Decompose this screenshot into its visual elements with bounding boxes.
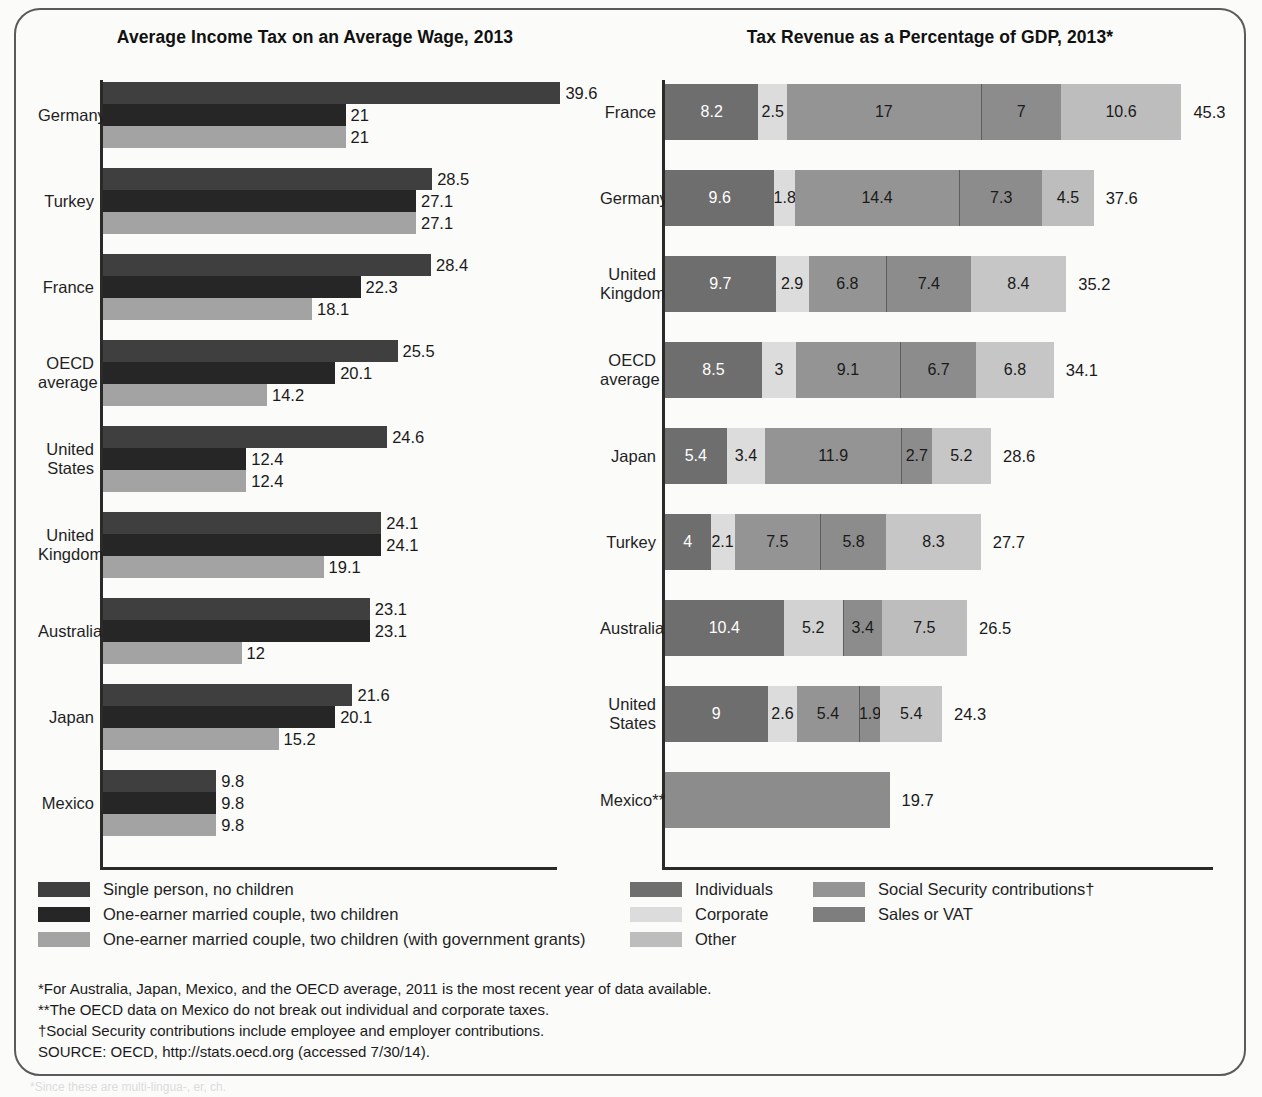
left-chart-bar-value: 27.1 — [421, 190, 453, 212]
left-chart-bar-value: 24.6 — [392, 426, 424, 448]
right-chart-total-label: 45.3 — [1193, 84, 1225, 140]
right-chart-stacked-bar: 92.65.41.95.4 — [665, 686, 942, 742]
right-chart-stacked-bar: 5.43.411.92.75.2 — [665, 428, 991, 484]
right-chart-segment: 1.9 — [859, 686, 881, 742]
right-chart-total-label: 28.6 — [1003, 428, 1035, 484]
left-chart-bar — [103, 792, 216, 814]
left-chart-category-label: Australia — [38, 622, 94, 641]
left-chart-bar-value: 15.2 — [284, 728, 316, 750]
left-chart-group: Japan21.620.115.2 — [38, 684, 568, 750]
right-chart-row: France8.22.517710.645.3 — [600, 84, 1220, 140]
left-chart-bar — [103, 556, 324, 578]
left-chart-bar-value: 12.4 — [251, 448, 283, 470]
legend-swatch — [38, 907, 90, 922]
right-chart-row: Germany9.61.814.47.34.537.6 — [600, 170, 1220, 226]
right-chart-segment: 8.5 — [665, 342, 762, 398]
right-chart-segment: 7.4 — [886, 256, 970, 312]
right-chart-segment: 5.8 — [820, 514, 886, 570]
left-chart-bar-value: 21.6 — [357, 684, 389, 706]
right-chart-row: UnitedKingdom9.72.96.87.48.435.2 — [600, 256, 1220, 312]
right-chart-segment: 7 — [981, 84, 1061, 140]
left-chart-group: France28.422.318.1 — [38, 254, 568, 320]
right-chart-stacked-bar: 42.17.55.88.3 — [665, 514, 981, 570]
left-chart-bar — [103, 728, 279, 750]
right-chart-segment: 9.7 — [665, 256, 776, 312]
right-chart-category-label: France — [600, 103, 656, 122]
right-chart-row: Australia10.45.23.47.526.5 — [600, 600, 1220, 656]
left-chart-x-axis — [100, 867, 557, 870]
legend-label: Other — [695, 930, 736, 949]
left-chart-bar-value: 9.8 — [221, 792, 244, 814]
left-chart-bar — [103, 620, 370, 642]
left-chart-bar-group: 39.62121 — [103, 82, 563, 148]
right-chart-stacked-bar: 8.539.16.76.8 — [665, 342, 1054, 398]
left-legend-item: One-earner married couple, two children … — [38, 928, 585, 950]
right-chart-total-label: 34.1 — [1066, 342, 1098, 398]
left-chart-category-label: France — [38, 278, 94, 297]
left-chart-bar — [103, 684, 352, 706]
right-chart-segment: 3.4 — [843, 600, 882, 656]
right-chart-segment: 6.8 — [809, 256, 887, 312]
left-chart-bar-group: 24.612.412.4 — [103, 426, 563, 492]
right-chart-segment: 14.4 — [795, 170, 959, 226]
right-chart-category-label: UnitedKingdom — [600, 265, 656, 303]
page-edge-note: *Since these are multi-lingua-, er, ch. — [30, 1080, 226, 1094]
left-chart-bar-value: 19.1 — [329, 556, 361, 578]
right-chart-segment: 5.4 — [797, 686, 859, 742]
right-chart-category-label: UnitedStates — [600, 695, 656, 733]
left-chart-bar — [103, 512, 381, 534]
left-chart-bar — [103, 384, 267, 406]
right-chart-segment: 6.8 — [976, 342, 1054, 398]
left-chart-bar-value: 18.1 — [317, 298, 349, 320]
left-chart-bar-group: 9.89.89.8 — [103, 770, 563, 836]
right-chart-segment: 7.5 — [882, 600, 968, 656]
footnotes: *For Australia, Japan, Mexico, and the O… — [38, 978, 1188, 1062]
right-chart-segment: 8.4 — [971, 256, 1067, 312]
left-chart-title: Average Income Tax on an Average Wage, 2… — [80, 27, 550, 48]
legend-label: Social Security contributions† — [878, 880, 1094, 899]
right-chart-x-axis — [662, 867, 1213, 870]
left-chart-category-label: Turkey — [38, 192, 94, 211]
right-chart-row: UnitedStates92.65.41.95.424.3 — [600, 686, 1220, 742]
right-chart-stacked-bar — [665, 772, 890, 828]
left-chart-bar — [103, 168, 432, 190]
right-chart-segment: 9 — [665, 686, 768, 742]
right-chart-segment: 5.4 — [880, 686, 942, 742]
footnote-asterisk: *For Australia, Japan, Mexico, and the O… — [38, 978, 1188, 999]
right-chart-segment: 7.5 — [735, 514, 821, 570]
left-chart-bar — [103, 426, 387, 448]
right-chart-segment: 5.2 — [784, 600, 843, 656]
left-chart-category-label: UnitedKingdom — [38, 526, 94, 564]
footnote-dagger: †Social Security contributions include e… — [38, 1020, 1188, 1041]
right-chart-segment: 3 — [762, 342, 796, 398]
left-chart-bar-value: 27.1 — [421, 212, 453, 234]
right-chart-segment — [665, 772, 890, 828]
left-chart-group: Germany39.62121 — [38, 82, 568, 148]
left-chart-bar-value: 20.1 — [340, 706, 372, 728]
right-chart-stacked-bar: 10.45.23.47.5 — [665, 600, 967, 656]
right-chart-stacked-bar: 9.61.814.47.34.5 — [665, 170, 1094, 226]
right-chart-segment: 8.3 — [886, 514, 981, 570]
left-chart-bar-value: 12 — [247, 642, 265, 664]
left-chart-bar — [103, 126, 346, 148]
left-chart-bar — [103, 254, 431, 276]
right-chart-title: Tax Revenue as a Percentage of GDP, 2013… — [650, 27, 1210, 48]
right-legend-item: Other — [630, 928, 773, 950]
left-chart-bar — [103, 642, 242, 664]
right-chart-category-label: Germany — [600, 189, 656, 208]
right-chart-segment: 1.8 — [774, 170, 795, 226]
right-chart-segment: 2.6 — [768, 686, 798, 742]
left-chart-bar-value: 25.5 — [403, 340, 435, 362]
left-chart-category-label: Mexico — [38, 794, 94, 813]
right-chart-segment: 10.6 — [1061, 84, 1182, 140]
left-chart-bar-value: 22.3 — [366, 276, 398, 298]
left-chart-group: UnitedStates24.612.412.4 — [38, 426, 568, 492]
left-chart-bar-group: 23.123.112 — [103, 598, 563, 664]
right-chart-segment: 8.2 — [665, 84, 758, 140]
footnote-double-asterisk: **The OECD data on Mexico do not break o… — [38, 999, 1188, 1020]
left-chart-bar-value: 21 — [351, 104, 369, 126]
left-chart-bar-value: 24.1 — [386, 512, 418, 534]
left-chart-bar — [103, 706, 335, 728]
right-chart-segment: 9.1 — [796, 342, 900, 398]
right-chart-category-label: OECDaverage — [600, 351, 656, 389]
